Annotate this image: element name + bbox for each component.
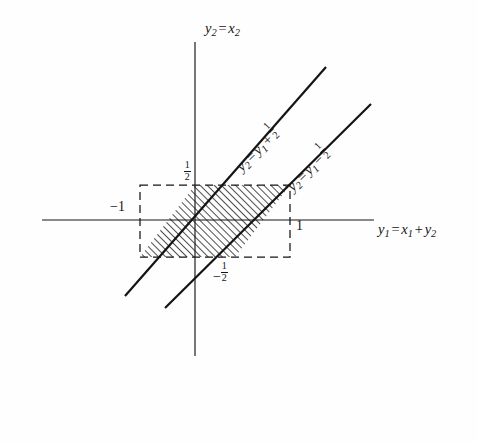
tick-label-y-negative-half: −12 bbox=[213, 261, 228, 284]
tick-label-x-one: 1 bbox=[296, 219, 303, 233]
horizontal-axis-label: y1=x1+y2 bbox=[378, 222, 436, 239]
shaded-region bbox=[140, 185, 290, 257]
vertical-axis-label: y2=x2 bbox=[205, 21, 240, 38]
figure-canvas: y2=x2 y1=x1+y2 y2=y1+12 y2=y1−12 12 −12 … bbox=[0, 0, 478, 442]
tick-label-x-negative-one: −1 bbox=[110, 200, 125, 214]
tick-label-y-positive-half: 12 bbox=[184, 160, 191, 183]
